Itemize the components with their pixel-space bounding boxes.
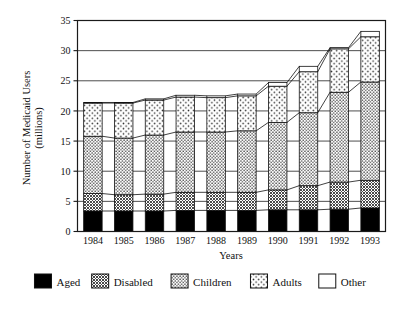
x-tick-label: 1984 xyxy=(83,235,103,246)
connector-aged xyxy=(318,209,330,210)
legend-label-adults: Adults xyxy=(272,276,301,288)
connector-children xyxy=(349,82,361,92)
bar-segment-aged xyxy=(299,210,317,232)
y-tick-label: 10 xyxy=(61,166,71,177)
x-tick-label: 1991 xyxy=(299,235,319,246)
legend-swatch-aged xyxy=(34,274,51,288)
connector-aged xyxy=(164,210,176,211)
connector-children xyxy=(256,122,268,130)
bar-segment-aged xyxy=(114,211,132,231)
bar-segment-adults xyxy=(330,49,348,92)
series-connector-lines xyxy=(102,31,361,211)
bar-segment-aged xyxy=(268,210,286,232)
bar-1987 xyxy=(176,95,194,231)
bar-segment-children xyxy=(361,82,379,180)
bar-segment-adults xyxy=(268,86,286,122)
connector-children xyxy=(318,92,330,112)
bar-1992 xyxy=(330,48,348,232)
bar-segment-adults xyxy=(114,103,132,138)
connector-other xyxy=(195,95,207,96)
legend-swatch-disabled xyxy=(92,274,109,288)
bar-segment-other xyxy=(330,48,348,49)
connector-aged xyxy=(256,210,268,211)
bar-segment-other xyxy=(145,99,163,100)
connector-children xyxy=(225,131,237,132)
bar-segment-disabled xyxy=(84,194,102,211)
chart-legend: AgedDisabledChildrenAdultsOther xyxy=(34,274,366,288)
bar-segment-children xyxy=(145,135,163,194)
x-tick-label: 1993 xyxy=(360,235,380,246)
connector-children xyxy=(287,113,299,123)
bar-segment-adults xyxy=(84,103,102,136)
connector-disabled xyxy=(287,186,299,190)
connector-aged xyxy=(349,208,361,209)
medicaid-users-stacked-bar-figure: 05101520253035 1984198519861987198819891… xyxy=(0,0,403,313)
y-axis-title-line1: Number of Medicaid Users xyxy=(21,71,32,186)
y-tick-label: 20 xyxy=(61,106,71,117)
connector-disabled xyxy=(318,182,330,186)
bar-segment-adults xyxy=(299,72,317,113)
bar-segment-aged xyxy=(145,211,163,231)
y-axis-ticks: 05101520253035 xyxy=(61,15,78,237)
bar-segment-children xyxy=(176,132,194,192)
bar-segment-other xyxy=(299,66,317,71)
x-tick-label: 1990 xyxy=(268,235,288,246)
bar-segment-disabled xyxy=(114,195,132,211)
legend-label-other: Other xyxy=(341,276,366,288)
bar-segment-disabled xyxy=(207,192,225,210)
bar-segment-other xyxy=(207,96,225,98)
connector-adults xyxy=(225,96,237,98)
bar-segment-other xyxy=(114,102,132,103)
connector-disabled xyxy=(102,194,114,195)
x-axis-ticks: 1984198519861987198819891990199119921993 xyxy=(83,235,380,246)
connector-disabled xyxy=(256,190,268,192)
connector-adults xyxy=(318,49,330,72)
x-tick-label: 1989 xyxy=(237,235,257,246)
y-axis-title-line2: (millions) xyxy=(33,107,45,149)
x-tick-label: 1992 xyxy=(329,235,349,246)
y-tick-label: 5 xyxy=(66,196,71,207)
bar-segment-aged xyxy=(330,209,348,231)
bar-segment-children xyxy=(299,113,317,186)
bar-segment-adults xyxy=(361,37,379,82)
bar-1984 xyxy=(84,102,102,231)
connector-disabled xyxy=(164,192,176,194)
bar-segment-aged xyxy=(361,208,379,232)
legend-label-disabled: Disabled xyxy=(114,276,154,288)
legend-label-children: Children xyxy=(193,276,232,288)
bar-segment-disabled xyxy=(145,194,163,211)
bar-segment-adults xyxy=(176,97,194,132)
bar-segment-children xyxy=(207,132,225,192)
bar-segment-other xyxy=(361,31,379,36)
bar-segment-other xyxy=(268,83,286,87)
connector-children xyxy=(102,136,114,138)
bar-segment-aged xyxy=(84,211,102,231)
y-tick-label: 15 xyxy=(61,136,71,147)
bar-segment-disabled xyxy=(361,180,379,208)
bar-1989 xyxy=(238,94,256,231)
y-tick-label: 35 xyxy=(61,15,71,26)
bar-segment-disabled xyxy=(176,192,194,210)
bar-segment-other xyxy=(176,95,194,97)
x-axis-title: Years xyxy=(219,250,242,261)
connector-disabled xyxy=(349,180,361,182)
bar-segment-aged xyxy=(207,210,225,231)
bar-segment-disabled xyxy=(238,192,256,210)
y-tick-label: 25 xyxy=(61,75,71,86)
legend-swatch-adults xyxy=(250,274,267,288)
bar-1988 xyxy=(207,96,225,232)
connector-other xyxy=(256,83,268,94)
bar-segment-other xyxy=(84,102,102,103)
bar-segment-children xyxy=(330,92,348,182)
bar-segment-children xyxy=(114,138,132,195)
y-tick-label: 0 xyxy=(66,226,71,237)
x-tick-label: 1985 xyxy=(114,235,134,246)
bar-segment-aged xyxy=(176,210,194,231)
connector-adults xyxy=(349,37,361,49)
bar-1993 xyxy=(361,31,379,231)
connector-disabled xyxy=(133,194,145,195)
legend-swatch-children xyxy=(171,274,188,288)
bar-segment-other xyxy=(238,94,256,96)
bar-1990 xyxy=(268,83,286,232)
bar-segment-adults xyxy=(207,98,225,132)
